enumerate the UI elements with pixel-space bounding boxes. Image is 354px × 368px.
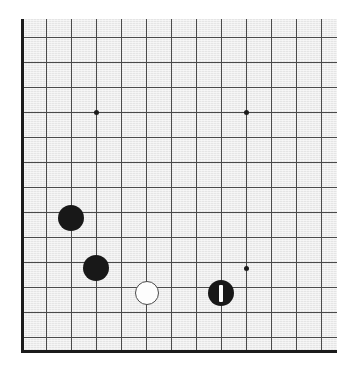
black-stone-1[interactable] [58,205,84,231]
black-stone-last-move[interactable] [208,280,234,306]
black-stone-2[interactable] [83,255,109,281]
stone-layer [0,0,354,368]
white-stone-1[interactable] [135,281,159,305]
go-board-diagram [0,0,354,368]
last-move-marker-icon [219,285,223,302]
